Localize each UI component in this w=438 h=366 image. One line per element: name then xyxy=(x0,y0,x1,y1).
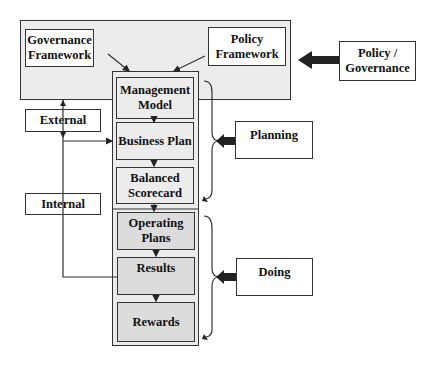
big-left-arrow-icon xyxy=(298,51,339,69)
policy-to-model-arrow xyxy=(174,56,205,71)
doing-brace xyxy=(204,216,218,337)
feedback-line xyxy=(63,100,117,277)
down-arrow-icon xyxy=(60,132,66,138)
doing-arrow-icon xyxy=(216,270,236,284)
up-arrow-icon xyxy=(60,100,66,106)
planning-arrow-icon xyxy=(216,134,235,148)
governance-to-model-arrow xyxy=(108,54,129,71)
planning-brace xyxy=(204,81,218,199)
connector-lines xyxy=(0,0,438,366)
